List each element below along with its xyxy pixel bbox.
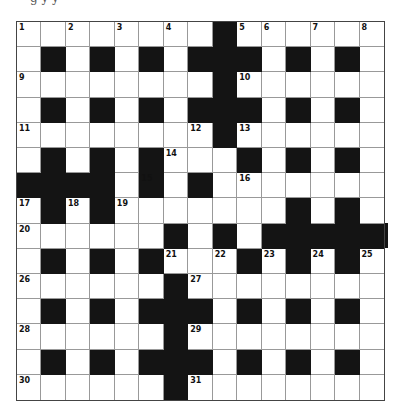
grid-cell[interactable]: [115, 98, 139, 123]
grid-cell[interactable]: [286, 22, 310, 47]
grid-cell[interactable]: [164, 98, 188, 123]
grid-cell[interactable]: [360, 47, 384, 72]
grid-cell[interactable]: [311, 47, 335, 72]
grid-cell[interactable]: 9: [17, 72, 41, 97]
grid-cell[interactable]: 27: [188, 274, 212, 299]
grid-cell[interactable]: [115, 72, 139, 97]
grid-cell[interactable]: [17, 98, 41, 123]
grid-cell[interactable]: [311, 72, 335, 97]
grid-cell[interactable]: [66, 249, 90, 274]
grid-cell[interactable]: 5: [237, 22, 261, 47]
grid-cell[interactable]: [188, 22, 212, 47]
grid-cell[interactable]: [237, 274, 261, 299]
grid-cell[interactable]: 21: [164, 249, 188, 274]
grid-cell[interactable]: [164, 47, 188, 72]
grid-cell[interactable]: [311, 274, 335, 299]
grid-cell[interactable]: 22: [213, 249, 237, 274]
grid-cell[interactable]: [90, 375, 114, 400]
grid-cell[interactable]: 31: [188, 375, 212, 400]
grid-cell[interactable]: [237, 324, 261, 349]
grid-cell[interactable]: 20: [17, 224, 41, 249]
grid-cell[interactable]: [41, 274, 65, 299]
grid-cell[interactable]: [262, 299, 286, 324]
grid-cell[interactable]: [90, 324, 114, 349]
grid-cell[interactable]: [17, 299, 41, 324]
grid-cell[interactable]: [41, 22, 65, 47]
grid-cell[interactable]: [335, 123, 359, 148]
grid-cell[interactable]: [311, 173, 335, 198]
grid-cell[interactable]: 28: [17, 324, 41, 349]
grid-cell[interactable]: [66, 148, 90, 173]
grid-cell[interactable]: [188, 148, 212, 173]
grid-cell[interactable]: [213, 299, 237, 324]
grid-cell[interactable]: [66, 98, 90, 123]
grid-cell[interactable]: [360, 98, 384, 123]
grid-cell[interactable]: [360, 72, 384, 97]
grid-cell[interactable]: [139, 274, 163, 299]
grid-cell[interactable]: [360, 324, 384, 349]
grid-cell[interactable]: [262, 375, 286, 400]
grid-cell[interactable]: [17, 47, 41, 72]
grid-cell[interactable]: [213, 173, 237, 198]
grid-cell[interactable]: [188, 249, 212, 274]
grid-cell[interactable]: 29: [188, 324, 212, 349]
grid-cell[interactable]: [262, 350, 286, 375]
grid-cell[interactable]: [360, 148, 384, 173]
grid-cell[interactable]: [335, 173, 359, 198]
grid-cell[interactable]: [335, 22, 359, 47]
grid-cell[interactable]: 8: [360, 22, 384, 47]
grid-cell[interactable]: [188, 224, 212, 249]
grid-cell[interactable]: [311, 198, 335, 223]
grid-cell[interactable]: [237, 375, 261, 400]
grid-cell[interactable]: [66, 350, 90, 375]
grid-cell[interactable]: 18: [66, 198, 90, 223]
grid-cell[interactable]: [286, 72, 310, 97]
grid-cell[interactable]: [286, 324, 310, 349]
grid-cell[interactable]: [311, 324, 335, 349]
grid-cell[interactable]: [213, 148, 237, 173]
grid-cell[interactable]: 11: [17, 123, 41, 148]
grid-cell[interactable]: [66, 123, 90, 148]
grid-cell[interactable]: [311, 375, 335, 400]
grid-cell[interactable]: [17, 249, 41, 274]
grid-cell[interactable]: 2: [66, 22, 90, 47]
grid-cell[interactable]: [41, 123, 65, 148]
grid-cell[interactable]: [41, 72, 65, 97]
grid-cell[interactable]: [286, 274, 310, 299]
grid-cell[interactable]: [213, 324, 237, 349]
grid-cell[interactable]: [66, 47, 90, 72]
grid-cell[interactable]: [335, 72, 359, 97]
grid-cell[interactable]: 24: [311, 249, 335, 274]
grid-cell[interactable]: [262, 173, 286, 198]
grid-cell[interactable]: [360, 274, 384, 299]
grid-cell[interactable]: [335, 375, 359, 400]
grid-cell[interactable]: [139, 224, 163, 249]
grid-cell[interactable]: [164, 198, 188, 223]
grid-cell[interactable]: [115, 173, 139, 198]
grid-cell[interactable]: 23: [262, 249, 286, 274]
grid-cell[interactable]: 25: [360, 249, 384, 274]
grid-cell[interactable]: [262, 274, 286, 299]
grid-cell[interactable]: [17, 350, 41, 375]
grid-cell[interactable]: 6: [262, 22, 286, 47]
grid-cell[interactable]: [213, 350, 237, 375]
grid-cell[interactable]: [335, 324, 359, 349]
grid-cell[interactable]: [115, 47, 139, 72]
grid-cell[interactable]: [188, 198, 212, 223]
grid-cell[interactable]: 3: [115, 22, 139, 47]
grid-cell[interactable]: [139, 22, 163, 47]
grid-cell[interactable]: 30: [17, 375, 41, 400]
grid-cell[interactable]: [360, 123, 384, 148]
grid-cell[interactable]: [286, 375, 310, 400]
grid-cell[interactable]: 1: [17, 22, 41, 47]
grid-cell[interactable]: [66, 72, 90, 97]
grid-cell[interactable]: [139, 375, 163, 400]
grid-cell[interactable]: [115, 375, 139, 400]
grid-cell[interactable]: [66, 375, 90, 400]
grid-cell[interactable]: [164, 72, 188, 97]
grid-cell[interactable]: 12: [188, 123, 212, 148]
grid-cell[interactable]: [262, 98, 286, 123]
grid-cell[interactable]: [115, 299, 139, 324]
grid-cell[interactable]: [115, 123, 139, 148]
grid-cell[interactable]: [115, 274, 139, 299]
